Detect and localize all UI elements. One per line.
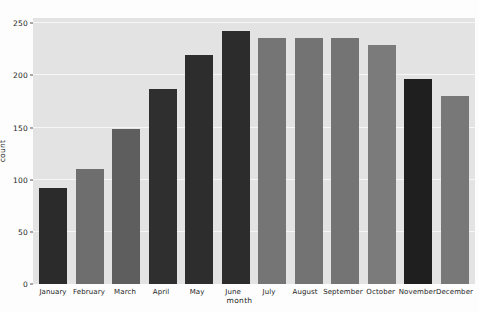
bar-chart-figure: 050100150200250 count JanuaryFebruaryMar…	[0, 0, 479, 312]
y-tick-label: 250	[13, 19, 28, 28]
bar[interactable]	[441, 96, 469, 284]
bar-slot	[181, 18, 218, 284]
bar-slot	[437, 18, 474, 284]
bar[interactable]	[295, 38, 323, 284]
bar-slot	[327, 18, 364, 284]
x-axis-title: month	[0, 296, 479, 305]
bar[interactable]	[185, 55, 213, 284]
bar-series	[33, 18, 475, 284]
bar[interactable]	[149, 89, 177, 284]
bar-slot	[218, 18, 255, 284]
bar-slot	[364, 18, 401, 284]
bar[interactable]	[39, 188, 67, 284]
bar[interactable]	[112, 129, 140, 284]
y-tick-label: 150	[13, 123, 28, 132]
bar[interactable]	[222, 31, 250, 284]
bar[interactable]	[331, 38, 359, 284]
bar[interactable]	[76, 169, 104, 284]
bar[interactable]	[258, 38, 286, 284]
bar-slot	[145, 18, 182, 284]
plot-area	[33, 18, 475, 284]
bar[interactable]	[368, 45, 396, 284]
y-axis-title: count	[0, 140, 7, 163]
bar-slot	[254, 18, 291, 284]
y-tick-label: 0	[23, 280, 28, 289]
bar-slot	[291, 18, 328, 284]
bar[interactable]	[404, 79, 432, 284]
bar-slot	[35, 18, 72, 284]
y-tick-label: 200	[13, 71, 28, 80]
bar-slot	[108, 18, 145, 284]
y-tick-label: 100	[13, 175, 28, 184]
bar-slot	[72, 18, 109, 284]
bar-slot	[400, 18, 437, 284]
y-tick-label: 50	[18, 227, 28, 236]
